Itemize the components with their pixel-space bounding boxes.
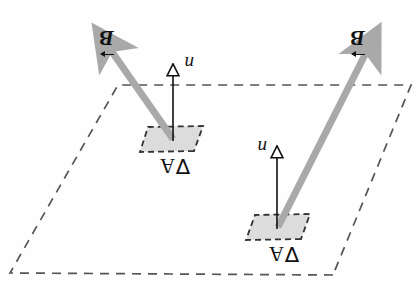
field-label-2: B — [99, 27, 114, 51]
field-label-2-wrap: B — [99, 27, 114, 51]
field-label-1: B — [350, 27, 365, 51]
normal-label-1: n — [258, 138, 268, 157]
area-label-1: ∇A — [268, 243, 299, 264]
figure-canvas: CHAPTER 11 · Magnetic Flux — [0, 0, 418, 297]
normal-label-2: n — [185, 54, 195, 73]
surface-plane — [10, 85, 411, 275]
scanned-page-contents: ∇A ∇A n n B B — [0, 0, 418, 297]
vector-arrow-overbar-2 — [101, 54, 114, 55]
field-label-1-text: B — [350, 26, 365, 51]
field-label-2-text: B — [99, 26, 114, 51]
field-vector-1 — [278, 29, 378, 227]
field-label-1-wrap: B — [350, 27, 365, 51]
vector-arrow-overbar-1 — [352, 54, 365, 55]
area-label-2: ∇A — [159, 155, 190, 176]
